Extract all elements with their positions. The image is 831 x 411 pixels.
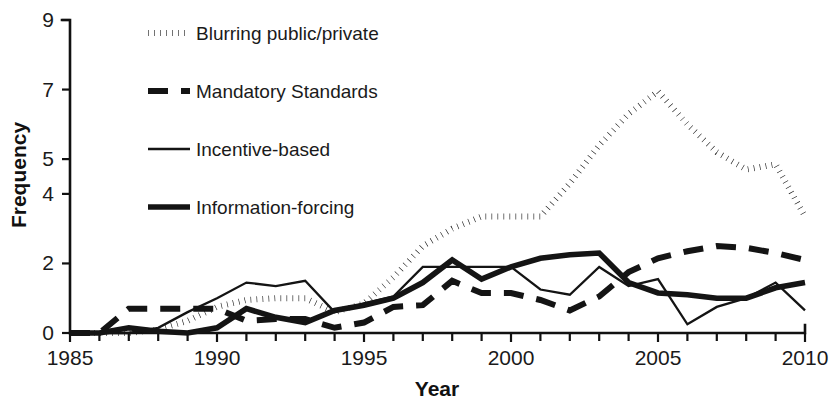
y-tick-label: 0: [42, 321, 54, 344]
chart-legend: Blurring public/privateMandatory Standar…: [148, 23, 379, 218]
x-tick-label: 2010: [782, 346, 829, 369]
x-axis-tick-labels: 198519901995200020052010: [47, 346, 829, 369]
x-tick-label: 1995: [341, 346, 388, 369]
legend-label-2: Incentive-based: [196, 139, 330, 160]
y-axis-line: [62, 20, 70, 333]
data-series-group: [70, 91, 805, 333]
x-tick-label: 2000: [488, 346, 535, 369]
y-axis-title: Frequency: [7, 122, 30, 229]
series-line-2: [70, 267, 805, 333]
y-tick-label: 2: [42, 251, 54, 274]
y-tick-label: 7: [42, 78, 54, 101]
y-tick-label: 4: [42, 182, 54, 205]
y-tick-label: 5: [42, 147, 54, 170]
y-tick-label: 9: [42, 8, 54, 31]
chart-canvas: 024579 198519901995200020052010 Frequenc…: [0, 0, 831, 411]
legend-label-3: Information-forcing: [196, 197, 354, 218]
legend-label-0: Blurring public/private: [196, 23, 379, 44]
x-tick-label: 1990: [194, 346, 241, 369]
y-axis-tick-labels: 024579: [42, 8, 54, 344]
x-tick-label: 2005: [635, 346, 682, 369]
x-axis-title: Year: [415, 377, 459, 400]
chart-figure: 024579 198519901995200020052010 Frequenc…: [0, 0, 831, 411]
legend-label-1: Mandatory Standards: [196, 81, 378, 102]
chart-axes: [62, 20, 805, 333]
x-tick-label: 1985: [47, 346, 94, 369]
